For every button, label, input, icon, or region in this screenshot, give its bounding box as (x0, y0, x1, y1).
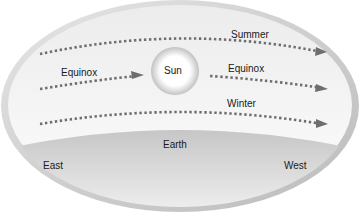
sun-label: Sun (164, 65, 182, 76)
sky-dome-illustration (0, 0, 360, 213)
sun-path-diagram: Sun Summer Equinox Equinox Winter Earth … (0, 0, 360, 213)
equinox-right-label: Equinox (228, 63, 264, 74)
winter-label: Winter (227, 98, 256, 109)
summer-label: Summer (231, 29, 269, 40)
east-label: East (43, 160, 63, 171)
equinox-left-label: Equinox (61, 67, 97, 78)
earth-label: Earth (163, 139, 187, 150)
west-label: West (284, 160, 307, 171)
